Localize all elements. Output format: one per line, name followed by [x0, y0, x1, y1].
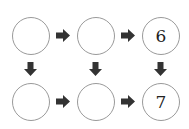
- arrow-right-icon: [56, 29, 70, 42]
- circle-r1c3: 6: [142, 17, 180, 55]
- circle-r1c1: [12, 17, 50, 55]
- circle-r2c3: 7: [142, 83, 180, 121]
- arrow-down-icon: [24, 62, 37, 76]
- arrow-down-icon: [89, 62, 102, 76]
- circle-r1c2: [77, 17, 115, 55]
- arrow-right-icon: [121, 95, 135, 108]
- circle-r2c1: [12, 83, 50, 121]
- arrow-down-icon: [154, 62, 167, 76]
- arrow-right-icon: [121, 29, 135, 42]
- circle-r2c2: [77, 83, 115, 121]
- arrow-right-icon: [56, 95, 70, 108]
